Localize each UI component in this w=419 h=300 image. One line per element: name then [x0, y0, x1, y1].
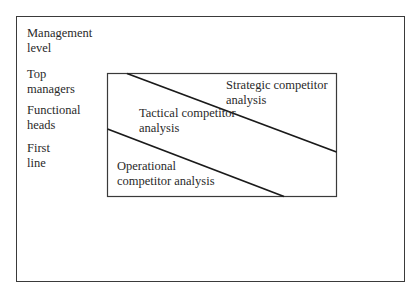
header-line-1: Management [27, 26, 92, 41]
header-line-2: level [27, 41, 92, 56]
region-label-line-1: Strategic competitor [226, 78, 328, 93]
level-first-line: First line [27, 141, 50, 171]
management-level-header: Management level [27, 26, 92, 56]
region-label-line-2: analysis [226, 93, 328, 108]
region-label-line-2: analysis [139, 121, 236, 136]
level-label-line-2: line [27, 156, 50, 171]
region-tactical-label: Tactical competitor analysis [139, 106, 236, 136]
region-operational-label: Operational competitor analysis [117, 159, 215, 189]
level-label-line-2: managers [27, 82, 75, 97]
level-label-line-1: Top [27, 67, 75, 82]
level-top-managers: Top managers [27, 67, 75, 97]
level-label-line-1: Functional [27, 103, 80, 118]
region-strategic-label: Strategic competitor analysis [226, 78, 328, 108]
level-label-line-2: heads [27, 118, 80, 133]
region-label-line-1: Operational [117, 159, 215, 174]
region-label-line-1: Tactical competitor [139, 106, 236, 121]
level-label-line-1: First [27, 141, 50, 156]
region-label-line-2: competitor analysis [117, 174, 215, 189]
level-functional-heads: Functional heads [27, 103, 80, 133]
